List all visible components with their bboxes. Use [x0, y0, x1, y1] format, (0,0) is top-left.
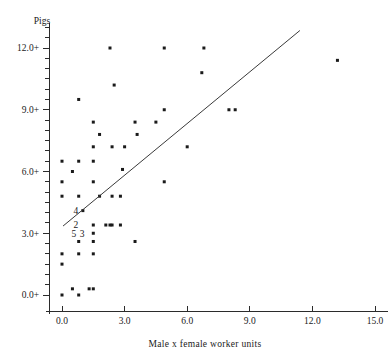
data-point	[108, 47, 111, 50]
data-point	[61, 263, 64, 266]
data-point	[113, 84, 116, 87]
data-point	[119, 224, 122, 227]
y-tick-label: 0.0+	[22, 290, 39, 300]
data-point	[88, 287, 91, 290]
data-point	[77, 294, 80, 297]
data-point	[92, 232, 95, 235]
data-point	[163, 180, 166, 183]
data-point	[98, 133, 101, 136]
data-point	[61, 160, 64, 163]
data-point	[111, 145, 114, 148]
y-tick-label: 9.0+	[22, 105, 39, 115]
y-minor-ticks	[45, 27, 49, 295]
scatter-plot-figure: 0.0+3.0+6.0+9.0+12.0+ 0.03.06.09.012.015…	[0, 0, 389, 358]
x-tick-label: 0.0	[56, 316, 68, 326]
x-major-ticks	[62, 306, 375, 311]
x-tick-label: 3.0	[119, 316, 131, 326]
data-point	[92, 180, 95, 183]
data-point	[104, 224, 107, 227]
x-axis-title: Male x female worker units	[149, 339, 262, 349]
data-point	[92, 160, 95, 163]
y-tick-labels: 0.0+3.0+6.0+9.0+12.0+	[17, 43, 39, 300]
data-point	[136, 133, 139, 136]
data-point	[77, 252, 80, 255]
data-point	[92, 287, 95, 290]
data-point	[123, 145, 126, 148]
data-point	[200, 71, 203, 74]
data-point	[111, 195, 114, 198]
data-point	[77, 240, 80, 243]
data-point	[92, 121, 95, 124]
data-point	[134, 121, 137, 124]
data-point	[111, 224, 114, 227]
x-tick-label: 6.0	[181, 316, 193, 326]
data-point	[92, 145, 95, 148]
x-tick-label: 12.0	[304, 316, 321, 326]
data-point	[77, 98, 80, 101]
data-point	[61, 252, 64, 255]
data-point	[163, 108, 166, 111]
y-tick-label: 6.0+	[22, 167, 39, 177]
plot-canvas: 0.0+3.0+6.0+9.0+12.0+ 0.03.06.09.012.015…	[0, 0, 389, 358]
data-point	[71, 287, 74, 290]
data-point	[121, 168, 124, 171]
data-point-group	[61, 47, 339, 297]
data-point	[163, 47, 166, 50]
data-point	[61, 195, 64, 198]
data-point	[77, 195, 80, 198]
y-axis-title: Pigs	[34, 16, 51, 26]
data-point	[92, 224, 95, 227]
data-point	[336, 59, 339, 62]
data-point	[119, 195, 122, 198]
overlap-count-label: 5	[71, 229, 76, 239]
data-point	[154, 121, 157, 124]
data-point	[92, 240, 95, 243]
data-point	[234, 108, 237, 111]
data-point	[202, 47, 205, 50]
x-tick-label: 15.0	[367, 316, 384, 326]
data-point	[227, 108, 230, 111]
data-point	[61, 180, 64, 183]
x-tick-labels: 0.03.06.09.012.015.0	[56, 316, 384, 326]
y-axis-group: 0.0+3.0+6.0+9.0+12.0+	[17, 23, 49, 313]
data-point	[92, 252, 95, 255]
data-point	[77, 160, 80, 163]
data-point	[71, 170, 74, 173]
y-tick-label: 12.0+	[17, 43, 39, 53]
x-tick-label: 9.0	[244, 316, 256, 326]
data-point	[134, 240, 137, 243]
overlap-count-label: 3	[80, 229, 85, 239]
regression-line	[63, 31, 300, 227]
data-point	[186, 145, 189, 148]
y-major-ticks	[43, 48, 49, 295]
y-tick-label: 3.0+	[22, 229, 39, 239]
x-axis-group: 0.03.06.09.012.015.0	[46, 306, 387, 326]
data-point	[61, 294, 64, 297]
